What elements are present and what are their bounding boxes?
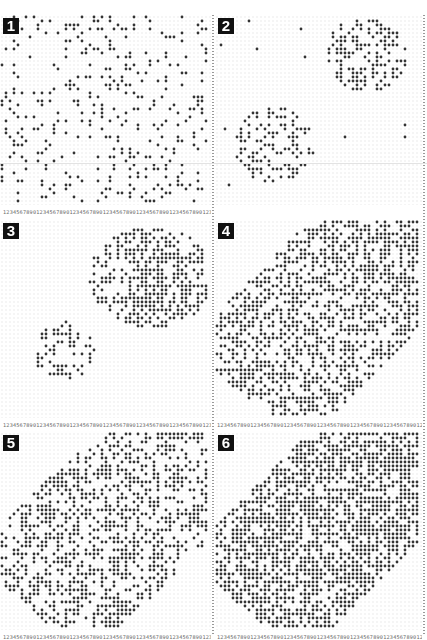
panel-number-badge: 4: [218, 223, 234, 239]
dot-pattern: [215, 432, 422, 630]
dot-pattern: [0, 432, 211, 630]
panel-2: 2: [215, 15, 422, 205]
panel-1: 1: [0, 15, 211, 205]
dot-pattern: [215, 220, 422, 418]
right-edge-rule: [423, 15, 425, 635]
tick-labels: 1234567890123456789012345678901234567890…: [3, 208, 211, 216]
panel-number-badge: 5: [3, 435, 19, 451]
panel-6: 6: [215, 432, 422, 630]
tick-labels: 1234567890123456789012345678901234567890…: [217, 633, 422, 640]
panel-3: 3: [0, 220, 211, 418]
column-divider: [212, 15, 214, 635]
dot-pattern: [215, 15, 422, 205]
panel-5: 5: [0, 432, 211, 630]
dot-pattern: [0, 15, 211, 205]
panel-number-badge: 1: [3, 18, 19, 34]
dot-pattern: [0, 220, 211, 418]
tick-labels: 1234567890123456789012345678901234567890…: [217, 421, 422, 429]
tick-labels: 1234567890123456789012345678901234567890…: [3, 633, 211, 640]
panel-number-badge: 3: [3, 223, 19, 239]
panel-4: 4: [215, 220, 422, 418]
panel-number-badge: 6: [218, 435, 234, 451]
tick-labels: 1234567890123456789012345678901234567890…: [3, 421, 211, 429]
panel-number-badge: 2: [218, 18, 234, 34]
